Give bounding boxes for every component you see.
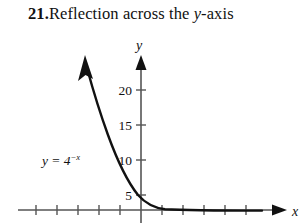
ytick-label-15: 15 bbox=[119, 118, 133, 133]
x-axis-arrowhead bbox=[272, 205, 287, 216]
exercise-text-before: Reflection across the bbox=[49, 4, 194, 23]
exercise-title: 21.Reflection across the y-axis bbox=[28, 4, 234, 24]
equation-exponent: −x bbox=[71, 152, 81, 162]
y-axis-label: y bbox=[134, 38, 143, 53]
curve-arrowhead bbox=[78, 55, 93, 81]
ytick-label-20: 20 bbox=[119, 83, 133, 98]
y-axis-arrowhead bbox=[136, 55, 147, 70]
graph-figure: 5 10 15 20 y x y = 4−x bbox=[0, 35, 303, 223]
function-curve bbox=[87, 68, 262, 211]
exercise-variable: y bbox=[194, 4, 201, 23]
exercise-number: 21. bbox=[28, 4, 49, 23]
ytick-label-5: 5 bbox=[125, 188, 132, 203]
x-axis-label: x bbox=[291, 204, 299, 219]
exercise-text-after: -axis bbox=[201, 4, 234, 23]
figure-page: 21.Reflection across the y-axis bbox=[0, 0, 303, 223]
equation-label: y = 4−x bbox=[40, 152, 80, 168]
